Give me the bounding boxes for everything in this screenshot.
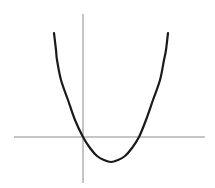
- parabola-curve: [54, 33, 168, 162]
- parabola-plot: [0, 0, 215, 188]
